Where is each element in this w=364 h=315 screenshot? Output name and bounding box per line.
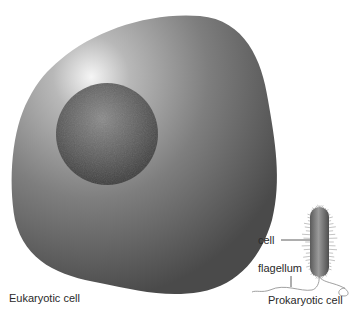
cell-callout-label: cell xyxy=(258,234,275,246)
eukaryotic-cell-label: Eukaryotic cell xyxy=(9,292,80,304)
bacterium-hair xyxy=(305,227,311,228)
cell-diagram xyxy=(0,0,364,315)
bacterium-hair xyxy=(320,205,321,207)
bacterium-hair xyxy=(318,277,319,279)
flagellum xyxy=(252,276,348,296)
bacterium-hair xyxy=(329,249,337,250)
bacterium-hair xyxy=(328,227,336,228)
prokaryotic-cell-label: Prokaryotic cell xyxy=(268,294,343,306)
bacterium-hair xyxy=(302,234,310,235)
prokaryotic-cell-body xyxy=(310,207,329,277)
flagellum-callout-label: flagellum xyxy=(258,262,302,274)
bacterium-hair xyxy=(303,256,311,257)
bacterium-hair xyxy=(318,205,319,207)
bacterium-hair xyxy=(328,256,334,257)
